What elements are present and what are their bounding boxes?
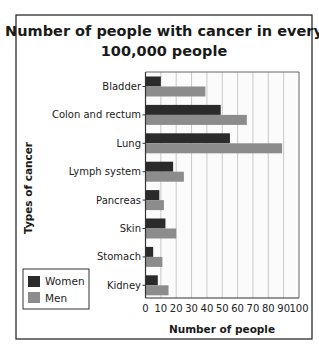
bar-men (146, 115, 247, 125)
legend-label-women: Women (45, 275, 85, 287)
category-label: Pancreas (96, 195, 141, 206)
bar-men (146, 172, 184, 182)
x-tick-label: 50 (216, 303, 229, 314)
bar-women (146, 219, 166, 229)
y-axis-label: Types of cancer (22, 141, 34, 234)
bar-women (146, 190, 160, 200)
legend-swatch-men (28, 292, 40, 303)
category-label: Skin (120, 223, 141, 234)
chart: Number of people with cancer in every 10… (0, 0, 319, 351)
bar-women (146, 105, 221, 115)
category-label: Lung (117, 138, 141, 149)
x-tick-label: 0 (142, 303, 148, 314)
x-tick-label: 20 (170, 303, 183, 314)
x-tick-label: 80 (262, 303, 275, 314)
x-tick-label: 90 (277, 303, 290, 314)
x-tick-label: 10 (154, 303, 167, 314)
x-tick-labels: 0102030405060708090100 (142, 303, 308, 314)
plot-area (146, 72, 300, 298)
bar-women (146, 247, 154, 257)
legend-swatch-women (28, 276, 40, 287)
category-label: Lymph system (69, 166, 141, 177)
chart-title-line-2: 100,000 people (101, 43, 228, 59)
legend: Women Men (23, 269, 89, 309)
bar-women (146, 162, 174, 172)
category-label: Colon and rectum (52, 109, 141, 120)
bar-men (146, 200, 164, 210)
bar-men (146, 87, 206, 97)
category-label: Kidney (107, 280, 141, 291)
bar-women (146, 133, 230, 143)
bar-women (146, 275, 158, 285)
chart-title-line-1: Number of people with cancer in every (5, 23, 319, 39)
category-label: Bladder (102, 81, 142, 92)
legend-label-men: Men (45, 292, 67, 304)
x-tick-label: 30 (185, 303, 198, 314)
bar-men (146, 143, 283, 153)
bar-men (146, 229, 177, 239)
x-axis-label: Number of people (169, 323, 275, 335)
x-tick-label: 70 (247, 303, 260, 314)
category-label: Stomach (97, 251, 141, 262)
bar-women (146, 77, 161, 87)
x-tick-label: 100 (289, 303, 308, 314)
bar-men (146, 257, 163, 267)
category-labels: BladderColon and rectumLungLymph systemP… (52, 81, 146, 291)
x-tick-label: 60 (231, 303, 244, 314)
x-tick-label: 40 (201, 303, 214, 314)
bar-men (146, 285, 169, 295)
